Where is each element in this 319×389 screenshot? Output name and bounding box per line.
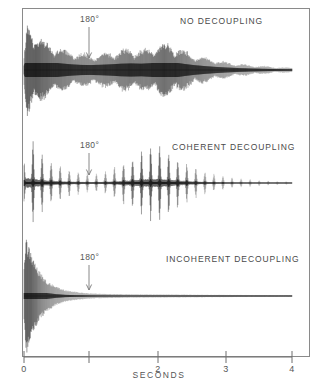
x-tick-label-3: 3 xyxy=(223,364,228,374)
x-axis-title: SECONDS xyxy=(132,370,185,380)
x-tick-label-0: 0 xyxy=(21,364,26,374)
panel-label-no-decoupling: NO DECOUPLING xyxy=(180,16,263,26)
x-tick-label-4: 4 xyxy=(289,364,294,374)
panel-label-coherent-decoupling: COHERENT DECOUPLING xyxy=(172,142,295,152)
figure-root: 180°180°180° NO DECOUPLING COHERENT DECO… xyxy=(0,0,319,389)
pulse-label-coherent-decoupling: 180° xyxy=(80,140,99,150)
nmr-figure-svg: 180°180°180° NO DECOUPLING COHERENT DECO… xyxy=(0,0,319,389)
panel-label-incoherent-decoupling: INCOHERENT DECOUPLING xyxy=(166,254,300,264)
pulse-label-no-decoupling: 180° xyxy=(80,14,99,24)
pulse-label-incoherent-decoupling: 180° xyxy=(80,252,99,262)
